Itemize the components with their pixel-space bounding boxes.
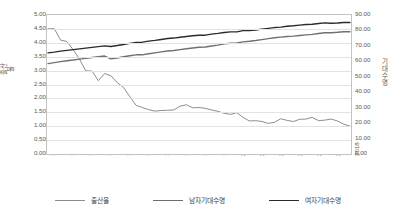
legend-label: 여자기대수명 [305,195,341,205]
y-axis-right-tick-label: 70.00 [355,41,395,48]
gridline [47,71,351,72]
y-axis-left-tick-label: 2.00 [6,93,46,100]
legend-color-swatch [269,200,299,201]
y-axis-right-tick-label: 60.00 [355,56,395,63]
gridline [47,29,351,30]
y-axis-left-tick-label: 2.50 [6,80,46,87]
x-axis-tick-label: 2018 [353,142,360,156]
gridline [47,43,351,44]
y-axis-right-tick-label: 0.00 [355,149,395,156]
y-axis-left-tick-label: 3.00 [6,66,46,73]
y-axis-right-tick-label: 80.00 [355,25,395,32]
y-axis-right-tick-label: 20.00 [355,118,395,125]
y-axis-left-tick-label: 1.00 [6,121,46,128]
y-axis-right-tick-label: 10.00 [355,134,395,141]
y-axis-left-tick-label: 4.00 [6,38,46,45]
gridline [47,85,351,86]
y-axis-left-tick-label: 5.00 [6,10,46,17]
y-axis-right-tick-label: 40.00 [355,87,395,94]
legend-item[interactable]: 남자기대수명 [153,195,225,205]
series-line [48,23,350,53]
y-axis-right-tick-label: 30.00 [355,103,395,110]
y-axis-right-tick-label: 50.00 [355,72,395,79]
plot-area [46,14,352,155]
legend-label: 남자기대수명 [189,195,225,205]
gridline [47,98,351,99]
y-axis-left-tick-label: 4.50 [6,24,46,31]
y-axis-left-tick-label: 3.50 [6,52,46,59]
gridline [47,126,351,127]
y-axis-left-tick-label: 0.00 [6,149,46,156]
chart-container: 출산율 기대수명 0.000.501.001.502.002.503.003.5… [0,0,395,220]
legend-color-swatch [153,200,183,201]
legend-item[interactable]: 여자기대수명 [269,195,341,205]
legend-item[interactable]: 출산율 [55,195,109,205]
legend-label: 출산율 [91,195,109,205]
y-axis-right-tick-label: 90.00 [355,10,395,17]
y-axis-left-tick-label: 0.50 [6,135,46,142]
gridline [47,112,351,113]
gridline [47,57,351,58]
chart-legend: 출산율남자기대수명여자기대수명 [0,192,395,208]
legend-color-swatch [55,200,85,201]
gridline [47,140,351,141]
y-axis-left-tick-label: 1.50 [6,107,46,114]
